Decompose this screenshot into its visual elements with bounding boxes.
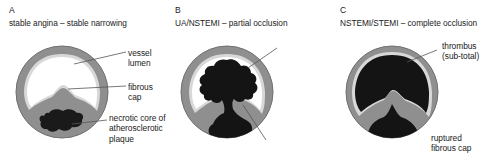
panel-c-artwork <box>330 0 496 167</box>
label-necrotic-core-line2: atherosclerotic <box>109 123 165 133</box>
label-necrotic-core-line1: necrotic core of <box>109 113 165 123</box>
label-fibrous-cap-line1: fibrous <box>128 82 153 92</box>
label-fibrous-cap: fibrous cap <box>128 82 153 103</box>
label-vessel-lumen: vessel lumen <box>128 48 151 69</box>
label-fibrous-cap-line2: cap <box>128 92 153 102</box>
panel-a-stable-angina: A stable angina – stable narrowing vesse <box>0 0 165 167</box>
panel-b-artwork <box>165 0 330 167</box>
label-necrotic-core: necrotic core of atherosclerotic plaque <box>109 113 165 144</box>
coronary-occlusion-figure: A stable angina – stable narrowing vesse <box>0 0 496 167</box>
label-necrotic-core-line3: plaque <box>109 134 165 144</box>
panel-b-ua-nstemi: B UA/NSTEMI – partial occlusion thrombus… <box>165 0 330 167</box>
label-vessel-lumen-line2: lumen <box>128 58 151 68</box>
label-vessel-lumen-line1: vessel <box>128 48 151 58</box>
panel-c-nstemi-stemi: C NSTEMI/STEMI – complete occlusion thro… <box>330 0 496 167</box>
